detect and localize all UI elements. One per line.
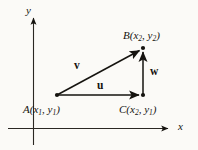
point-label-A: A(x1, y1) xyxy=(23,104,60,115)
point-label-B-name: B xyxy=(123,29,130,41)
y-axis-label: y xyxy=(26,5,31,16)
point-label-A-x: x1 xyxy=(33,103,42,115)
vector-triangle-figure: B(x2, y2) A(x1, y1) C(x2, y1) v u w y x xyxy=(0,0,198,150)
x-axis-label: x xyxy=(178,121,183,132)
point-label-B: B(x2, y2) xyxy=(123,30,160,41)
point-label-A-name: A xyxy=(23,103,30,115)
point-label-C: C(x2, y1) xyxy=(119,104,156,115)
point-label-C-y: y1 xyxy=(144,103,153,115)
figure-canvas xyxy=(0,0,198,150)
vector-label-u: u xyxy=(97,80,103,92)
point-label-C-x: x2 xyxy=(130,103,139,115)
point-B-dot xyxy=(141,46,145,50)
point-A-dot xyxy=(55,93,59,97)
vector-label-w: w xyxy=(150,66,158,78)
point-C-dot xyxy=(141,93,145,97)
point-label-B-y: y2 xyxy=(148,29,157,41)
point-label-B-x: x2 xyxy=(133,29,142,41)
point-label-A-y: y1 xyxy=(48,103,57,115)
vector-label-v: v xyxy=(74,60,80,72)
